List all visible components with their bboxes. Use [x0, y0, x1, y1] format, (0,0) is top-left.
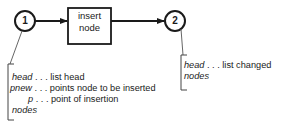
input-desc-head: . . . list head: [35, 72, 85, 82]
insert-node-label: insert node: [68, 10, 111, 34]
input-term-pnew: pnew: [10, 83, 32, 93]
output-desc-head: . . . list changed: [207, 60, 271, 70]
input-row-head: head . . . list head: [12, 72, 85, 84]
input-row-p: p . . . point of insertion: [28, 94, 118, 106]
leader-line-input: [10, 31, 22, 64]
output-row-head: head . . . list changed: [184, 60, 271, 72]
node-2-label: 2: [165, 15, 185, 27]
input-term-head: head: [12, 72, 32, 82]
input-term-p: p: [28, 94, 33, 104]
node-1-label: 1: [15, 15, 35, 27]
leader-line-output: [181, 29, 183, 55]
input-desc-pnew: . . . points node to be inserted: [35, 83, 156, 93]
output-footer-nodes: nodes: [184, 71, 209, 83]
input-desc-p: . . . point of insertion: [36, 94, 119, 104]
input-row-pnew: pnew . . . points node to be inserted: [10, 83, 156, 95]
output-term-head: head: [184, 60, 204, 70]
box-label-line1: insert: [68, 10, 111, 22]
input-footer-nodes: nodes: [12, 105, 37, 117]
box-label-line2: node: [68, 22, 111, 34]
